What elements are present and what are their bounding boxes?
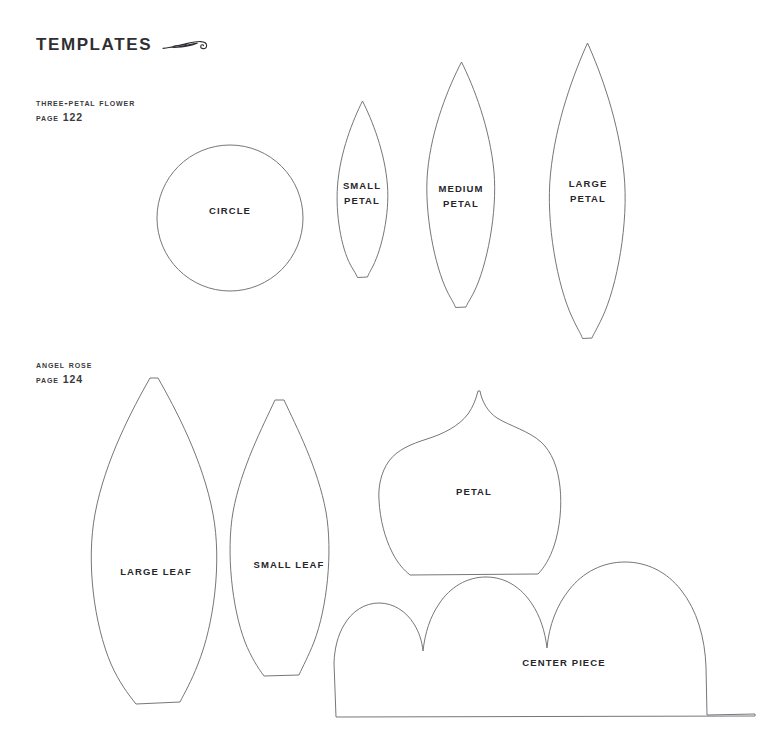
template-shape-circle[interactable] [157, 145, 303, 291]
template-shape-small-petal[interactable] [337, 101, 388, 278]
template-shape-large-leaf[interactable] [91, 378, 216, 704]
template-outlines [0, 0, 784, 745]
template-shape-center-piece-outline[interactable] [334, 562, 755, 717]
template-shape-medium-petal[interactable] [427, 62, 495, 308]
template-sheet: TEMPLATES THREE-PETAL FLOWER PAGE 122 AN… [0, 0, 784, 745]
template-shape-petal[interactable] [379, 391, 561, 575]
template-shape-small-leaf[interactable] [230, 400, 329, 676]
template-shape-large-petal[interactable] [549, 43, 625, 339]
